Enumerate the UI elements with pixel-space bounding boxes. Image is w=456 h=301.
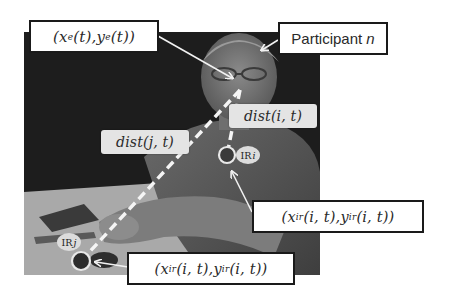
annotated-photo-figure: (xe(t), ye(t)) Participant n dist(i, t) … (0, 0, 456, 301)
eye-position-label: (xe(t), ye(t)) (29, 20, 159, 53)
ir-j-tag: IRj (57, 233, 81, 251)
dist-j-label: dist(j, t) (101, 130, 189, 154)
participant-label: Participant n (278, 22, 388, 55)
ir-i-position-label: (xir(i, t), yir(i, t)) (252, 200, 424, 233)
dist-i-label: dist(i, t) (229, 104, 317, 128)
ir-i-tag: IRi (236, 146, 260, 164)
ir-j-position-label: (xir(i, t), yir(i, t)) (127, 252, 295, 285)
